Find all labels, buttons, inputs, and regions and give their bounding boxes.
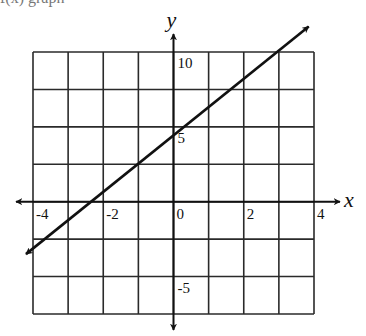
x-tick-label: -2 <box>106 206 119 222</box>
x-tick-label: -4 <box>36 206 49 222</box>
x-tick-label: 2 <box>247 206 255 222</box>
y-tick-label: 10 <box>178 55 193 71</box>
line-graph: x y -4-2024105-5 <box>0 0 366 336</box>
y-axis-label: y <box>165 7 177 32</box>
x-axis-label: x <box>343 187 354 212</box>
x-tick-label: 4 <box>317 206 325 222</box>
y-tick-label: -5 <box>178 280 191 296</box>
x-tick-label: 0 <box>177 206 185 222</box>
tick-labels: -4-2024105-5 <box>36 55 325 296</box>
